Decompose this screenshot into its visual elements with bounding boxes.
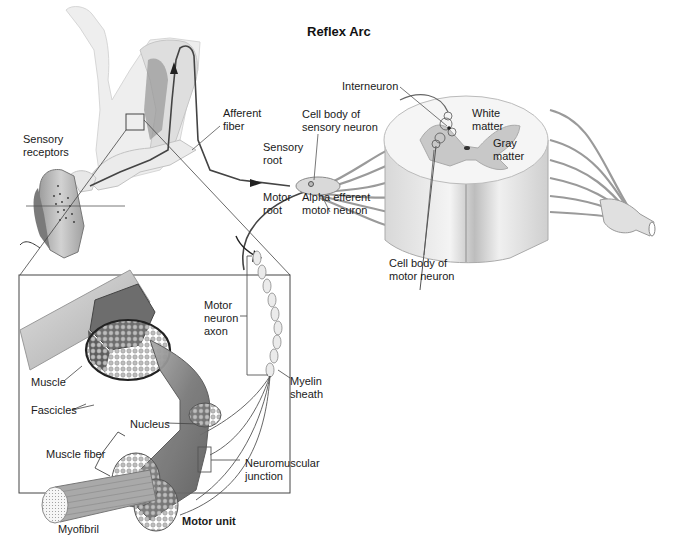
label-gray-matter: Gray matter [493,137,524,163]
label-cell-body-sensory-neuron: Cell body of sensory neuron [302,108,378,134]
arm-illustration [66,7,200,192]
label-white-matter: White matter [472,107,503,133]
label-sensory-receptors: Sensory receptors [23,133,69,159]
label-motor-unit: Motor unit [182,515,236,528]
label-motor-neuron-axon: Motor neuron axon [204,299,238,338]
label-neuromuscular-junction: Neuromuscular junction [245,457,320,483]
myelin-sheath-beads [253,251,282,377]
iron-illustration [20,170,84,258]
label-cell-body-motor-neuron: Cell body of motor neuron [389,257,454,283]
label-muscle-fiber: Muscle fiber [46,448,105,461]
label-sensory-root: Sensory root [263,141,303,167]
reflex-arc-diagram: Reflex Arc Afferent fiber Sensory recept… [0,0,673,553]
arrow-right-icon [250,179,262,187]
label-afferent-fiber: Afferent fiber [223,107,261,133]
label-interneuron: Interneuron [342,80,398,93]
label-nucleus: Nucleus [130,418,170,431]
label-alpha-efferent-motor-neuron: Alpha efferent motor neuron [302,191,370,217]
diagram-artwork [0,0,673,553]
label-motor-root: Motor root [263,191,291,217]
label-muscle: Muscle [31,376,66,389]
label-fascicles: Fascicles [31,404,77,417]
label-myelin-sheath: Myelin sheath [290,375,323,401]
label-myofibril: Myofibril [58,523,99,536]
peripheral-nerve [600,199,654,236]
diagram-title: Reflex Arc [307,24,371,39]
